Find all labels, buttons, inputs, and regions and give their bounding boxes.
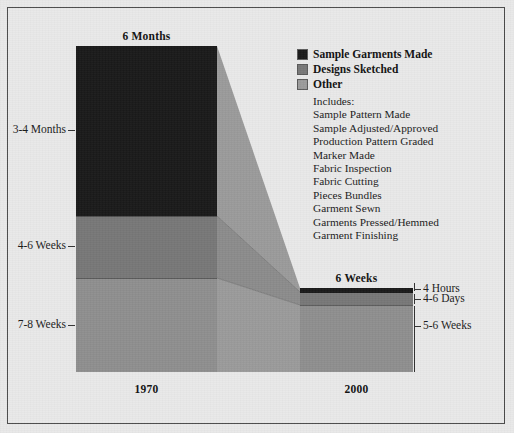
legend-item-sample-garments: Sample Garments Made (297, 47, 497, 61)
includes-item: Garment Finishing (313, 229, 497, 242)
includes-item: Sample Pattern Made (313, 108, 497, 121)
chart-figure: 6 Months 3-4 Months 4-6 Weeks 7-8 Weeks … (0, 0, 514, 433)
legend-item-designs-sketched: Designs Sketched (297, 62, 497, 76)
legend-item-other: Other (297, 77, 497, 91)
tick-right-3-stem (414, 306, 415, 372)
tick-right-1 (414, 289, 421, 290)
axis-label-right-2: 4-6 Days (423, 292, 511, 304)
legend-swatch-other-icon (297, 79, 308, 90)
year-label-2000: 2000 (300, 383, 413, 395)
axis-label-left-3: 7-8 Weeks (0, 318, 66, 330)
legend-label-sample-garments: Sample Garments Made (313, 48, 432, 60)
axis-label-left-1: 3-4 Months (0, 123, 66, 135)
axis-label-left-2: 4-6 Weeks (0, 239, 66, 251)
includes-list: Includes: Sample Pattern Made Sample Adj… (297, 95, 497, 242)
tick-right-3 (414, 326, 421, 327)
bar-segment-1970-designs-sketched (76, 216, 217, 278)
legend-label-other: Other (313, 78, 342, 90)
bar-segment-2000-designs-sketched (300, 293, 413, 305)
includes-item: Pieces Bundles (313, 189, 497, 202)
bar-title-1970: 6 Months (76, 30, 217, 42)
includes-item: Garments Pressed/Hemmed (313, 216, 497, 229)
tick-left-3 (68, 325, 75, 326)
legend-label-designs-sketched: Designs Sketched (313, 63, 398, 75)
bar-segment-1970-other (76, 278, 217, 372)
bar-segment-1970-sample-garments (76, 46, 217, 216)
tick-right-2 (414, 299, 421, 300)
year-label-1970: 1970 (76, 383, 217, 395)
plot-area: 6 Months 3-4 Months 4-6 Weeks 7-8 Weeks … (0, 0, 514, 433)
includes-item: Marker Made (313, 149, 497, 162)
legend-swatch-designs-sketched-icon (297, 64, 308, 75)
chart-legend: Sample Garments Made Designs Sketched Ot… (297, 47, 497, 242)
includes-item: Garment Sewn (313, 202, 497, 215)
tick-left-1 (68, 130, 75, 131)
axis-label-right-3: 5-6 Weeks (423, 319, 511, 331)
tick-left-2 (68, 246, 75, 247)
includes-heading: Includes: (313, 95, 497, 108)
legend-swatch-sample-garments-icon (297, 49, 308, 60)
includes-item: Production Pattern Graded (313, 135, 497, 148)
includes-item: Sample Adjusted/Approved (313, 122, 497, 135)
includes-item: Fabric Inspection (313, 162, 497, 175)
bar-segment-2000-other (300, 305, 413, 372)
includes-item: Fabric Cutting (313, 175, 497, 188)
bar-title-2000: 6 Weeks (300, 272, 413, 284)
